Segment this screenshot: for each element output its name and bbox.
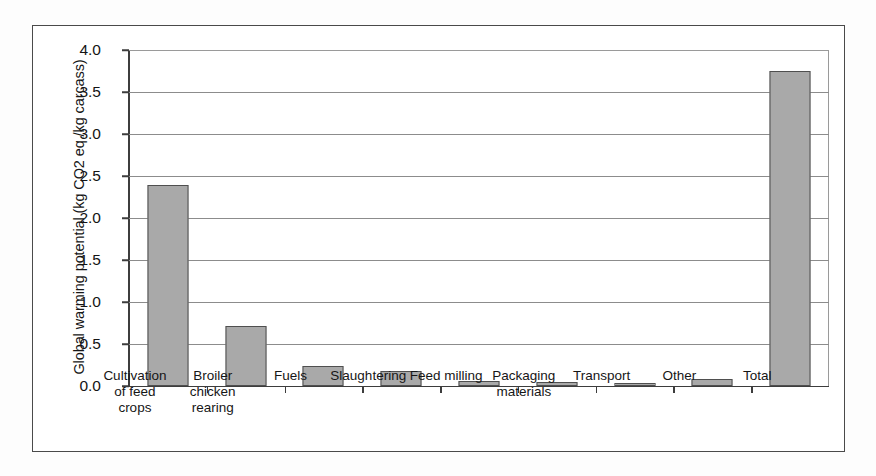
y-tick-label: 1.0 — [79, 293, 101, 311]
y-tick-mark — [122, 259, 129, 261]
y-tick-label: 3.5 — [79, 83, 101, 101]
bar-cell — [518, 50, 596, 386]
y-tick-label: 1.5 — [79, 251, 101, 269]
x-axis-label: Broiler chicken rearing — [174, 368, 252, 416]
bar-series — [129, 50, 829, 386]
figure-chart-global-warming-potential: Global warming potential (kg CO2 eq./kg … — [0, 0, 876, 476]
y-tick-label: 2.5 — [79, 167, 101, 185]
y-tick-mark — [122, 343, 129, 345]
x-axis-label: Other — [641, 368, 719, 416]
y-tick-mark — [122, 91, 129, 93]
bar-cell — [751, 50, 829, 386]
y-tick-label: 2.0 — [79, 209, 101, 227]
y-tick-label: 4.0 — [79, 41, 101, 59]
bar — [147, 185, 188, 386]
bar-cell — [207, 50, 285, 386]
bar-cell — [596, 50, 674, 386]
x-axis-category-labels: Cultivation of feed cropsBroiler chicken… — [96, 368, 796, 416]
x-axis-label: Feed milling — [407, 368, 485, 416]
plot-area: 4.03.53.02.52.01.51.00.50.0 — [129, 50, 829, 386]
y-tick-label: 3.0 — [79, 125, 101, 143]
x-axis-label: Total — [718, 368, 796, 416]
bar-cell — [440, 50, 518, 386]
x-axis-label: Packaging materials — [485, 368, 563, 416]
bar-cell — [362, 50, 440, 386]
bar-cell — [673, 50, 751, 386]
y-tick-mark — [122, 133, 129, 135]
x-axis-label: Fuels — [252, 368, 330, 416]
x-axis-label: Transport — [563, 368, 641, 416]
bar-cell — [285, 50, 363, 386]
y-tick-mark — [122, 49, 129, 51]
y-tick-mark — [122, 175, 129, 177]
bar — [770, 71, 811, 386]
y-tick-mark — [122, 301, 129, 303]
y-tick-mark — [122, 217, 129, 219]
y-tick-label: 0.5 — [79, 335, 101, 353]
x-axis-label: Slaughtering — [329, 368, 407, 416]
bar-cell — [129, 50, 207, 386]
x-axis-label: Cultivation of feed crops — [96, 368, 174, 416]
